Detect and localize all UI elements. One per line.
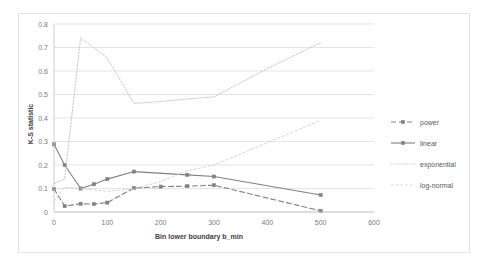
y-tick-label: 0.2 [38, 162, 48, 169]
data-point-marker-power [92, 202, 95, 205]
data-point-marker-power [63, 205, 66, 208]
y-tick-label: 0.3 [38, 138, 48, 145]
series-line-power [54, 185, 321, 211]
data-point-marker-linear [92, 183, 95, 186]
data-point-marker-power [79, 202, 82, 205]
y-axis-title: K-S statistic [27, 104, 34, 145]
series-line-exponential [54, 38, 321, 184]
series-line-log-normal [54, 120, 321, 201]
x-tick-label: 300 [208, 219, 220, 226]
data-point-marker-linear [186, 173, 189, 176]
y-tick-label: 0.8 [38, 21, 48, 28]
data-point-marker-power [159, 185, 162, 188]
legend-label-linear: linear [420, 140, 438, 147]
x-tick-label: 600 [368, 219, 380, 226]
legend-marker-power [401, 120, 404, 123]
legend-label-power: power [420, 119, 440, 127]
data-point-marker-linear [106, 178, 109, 181]
legend-label-exponential: exponential [420, 161, 456, 169]
y-tick-label: 0.6 [38, 68, 48, 75]
y-tick-label: 0.4 [38, 115, 48, 122]
y-axis-tick-labels: 00.10.20.30.40.50.60.70.8 [38, 21, 48, 216]
x-tick-label: 400 [261, 219, 273, 226]
legend-label-log-normal: log-normal [420, 182, 454, 190]
legend-marker-linear [401, 141, 404, 144]
y-tick-label: 0 [44, 209, 48, 216]
y-tick-label: 0.5 [38, 91, 48, 98]
data-point-marker-linear [319, 193, 322, 196]
y-tick-label: 0.1 [38, 185, 48, 192]
x-tick-label: 0 [52, 219, 56, 226]
data-point-marker-linear [212, 175, 215, 178]
chart-plot-area: 00.10.20.30.40.50.60.70.8 01002003004005… [19, 14, 471, 254]
y-tick-label: 0.7 [38, 44, 48, 51]
chart-legend: powerlinearexponentiallog-normal [391, 119, 456, 190]
data-point-marker-power [106, 201, 109, 204]
x-tick-label: 100 [101, 219, 113, 226]
x-tick-label: 200 [155, 219, 167, 226]
data-point-marker-linear [132, 170, 135, 173]
data-series-group [52, 38, 322, 213]
data-point-marker-linear [63, 163, 66, 166]
x-tick-label: 500 [315, 219, 327, 226]
x-axis-tick-labels: 0100200300400500600 [52, 219, 380, 226]
data-point-marker-power [212, 184, 215, 187]
x-axis-title: Bin lower boundary b_min [155, 233, 243, 241]
data-point-marker-power [186, 185, 189, 188]
chart-container: 00.10.20.30.40.50.60.70.8 01002003004005… [18, 13, 470, 253]
